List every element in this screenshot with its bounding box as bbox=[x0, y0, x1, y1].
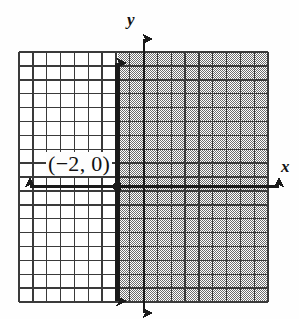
point-coordinate-label: (−2, 0) bbox=[46, 152, 112, 176]
point-marker-negative-2-0 bbox=[113, 182, 122, 191]
x-axis-label: x bbox=[281, 158, 290, 175]
y-axis-label: y bbox=[127, 11, 135, 28]
graph-canvas bbox=[0, 0, 299, 319]
coordinate-plane-figure: y x (−2, 0) bbox=[0, 0, 299, 319]
